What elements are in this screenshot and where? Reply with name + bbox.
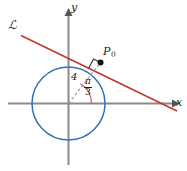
angle-denominator: 3	[84, 88, 92, 98]
point-p0-subscript: 0	[111, 50, 116, 59]
point-p0-label: P0	[103, 46, 115, 57]
x-axis-label: x	[176, 97, 182, 108]
tangent-point-dot	[98, 60, 104, 66]
geometry-figure: ℒ y x P0 4 π 3	[0, 0, 187, 171]
angle-numerator: π	[84, 77, 92, 87]
point-p0-name: P	[103, 45, 110, 58]
radius-length-label: 4	[71, 72, 77, 82]
figure-canvas	[0, 0, 187, 171]
tangent-line-label: ℒ	[8, 19, 17, 31]
tangent-line	[21, 36, 177, 112]
angle-measure-label: π 3	[84, 77, 92, 97]
y-axis-label: y	[71, 2, 77, 13]
